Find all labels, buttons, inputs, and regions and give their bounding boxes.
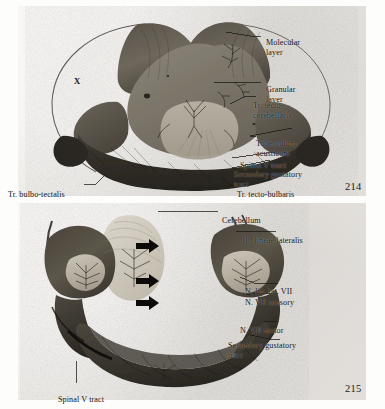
callout-tr-tecto-cerebellaris: Tr. tecto- cerebellaris [253,92,331,120]
callout-spinal-v-tract-2: Spinal V tract [58,386,148,405]
callout-secondary-gustatory-tract-2: Secondary gustatory tract [228,332,338,360]
region-marker-x: X [74,68,80,87]
callout-tr-bulbo-tectalis: Tr. bulbo-tectalis [8,181,100,200]
page-number-215: 215 [345,383,362,394]
callout-n-vii-sensory: N. VII sensory [245,289,341,308]
callout-molecular-layer: Molecular layer [266,29,326,57]
callout-l-lineae-lateralis: L. lineae lateralis [245,227,349,246]
callout-cerebellum: Cerebellum [222,207,302,226]
callout-tr-tecto-bulbaris: Tr. tecto-bulbaris [237,181,329,200]
page-number-214: 214 [345,181,362,192]
figure-plate-page: Molecular layer Granular layer Tr. tecto… [0,0,385,409]
